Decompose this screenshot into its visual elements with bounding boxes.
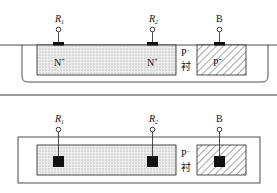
terminal-r2-icon <box>150 27 155 32</box>
terminal-b-top-icon <box>217 127 222 132</box>
contact-b <box>214 42 225 46</box>
terminal-b-icon <box>217 27 222 32</box>
label-r1-top: R1 <box>54 113 64 125</box>
label-substrate-char: 衬 <box>181 60 191 72</box>
label-b: B <box>216 13 223 24</box>
label-b-top: B <box>216 113 223 124</box>
terminal-r1-icon <box>56 27 61 32</box>
label-p-substrate: P− <box>181 47 191 58</box>
label-substrate-char-top: 衬 <box>181 161 191 173</box>
label-r2: R2 <box>148 13 158 25</box>
top-view: R1 R2 B P− 衬 <box>18 113 260 183</box>
terminal-r1-top-icon <box>56 127 61 132</box>
diagram-canvas: R1 R2 B N+ N+ P+ P− 衬 R1 R2 B P− 衬 <box>0 0 277 193</box>
contact-r1 <box>53 42 64 46</box>
terminal-r2-top-icon <box>150 127 155 132</box>
contact-r2 <box>147 42 158 46</box>
label-r2-top: R2 <box>148 113 158 125</box>
diagram-root: R1 R2 B N+ N+ P+ P− 衬 R1 R2 B P− 衬 <box>0 0 277 193</box>
label-r1: R1 <box>54 13 64 25</box>
cross-section-view: R1 R2 B N+ N+ P+ P− 衬 <box>0 13 277 82</box>
